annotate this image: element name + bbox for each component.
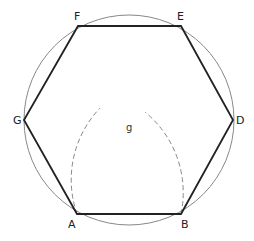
diagram-canvas: ABDEFGg [0, 0, 254, 241]
vertex-label-f: F [74, 10, 80, 23]
vertex-label-d: D [236, 114, 244, 127]
circumscribed-circle [24, 15, 234, 225]
vertex-labels: ABDEFGg [13, 10, 244, 231]
hexagon-diagram: ABDEFGg [0, 0, 254, 241]
vertex-label-g: G [13, 114, 22, 127]
vertex-label-b: B [181, 218, 189, 231]
arc-centered-at-B [71, 108, 100, 214]
construction-point-label-g: g [126, 122, 132, 133]
vertex-label-e: E [177, 10, 184, 23]
vertex-label-a: A [68, 218, 76, 231]
hexagon [24, 26, 233, 214]
arc-centered-at-A [145, 112, 183, 214]
